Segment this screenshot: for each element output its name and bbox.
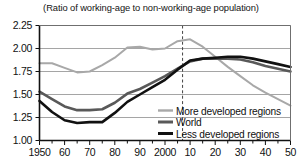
y-tick-label: 1.25 [0,111,32,123]
y-tick-label: 2.00 [0,42,32,54]
y-tick-label: 1.75 [0,65,32,77]
legend-item-less-developed-regions: Less developed regions [176,129,279,140]
chart-plot-area [0,0,302,167]
y-tick-label: 1.50 [0,88,32,100]
chart-figure: (Ratio of working-age to non-working-age… [0,0,302,167]
legend-swatches [158,111,173,134]
y-tick-label: 1.00 [0,134,32,146]
legend-item-world: World [176,117,201,128]
legend-item-more-developed-regions: More developed regions [176,106,281,117]
x-tick-label: 50 [276,146,303,158]
cropped-caption-strip [0,160,302,167]
y-tick-label: 2.25 [0,19,32,31]
